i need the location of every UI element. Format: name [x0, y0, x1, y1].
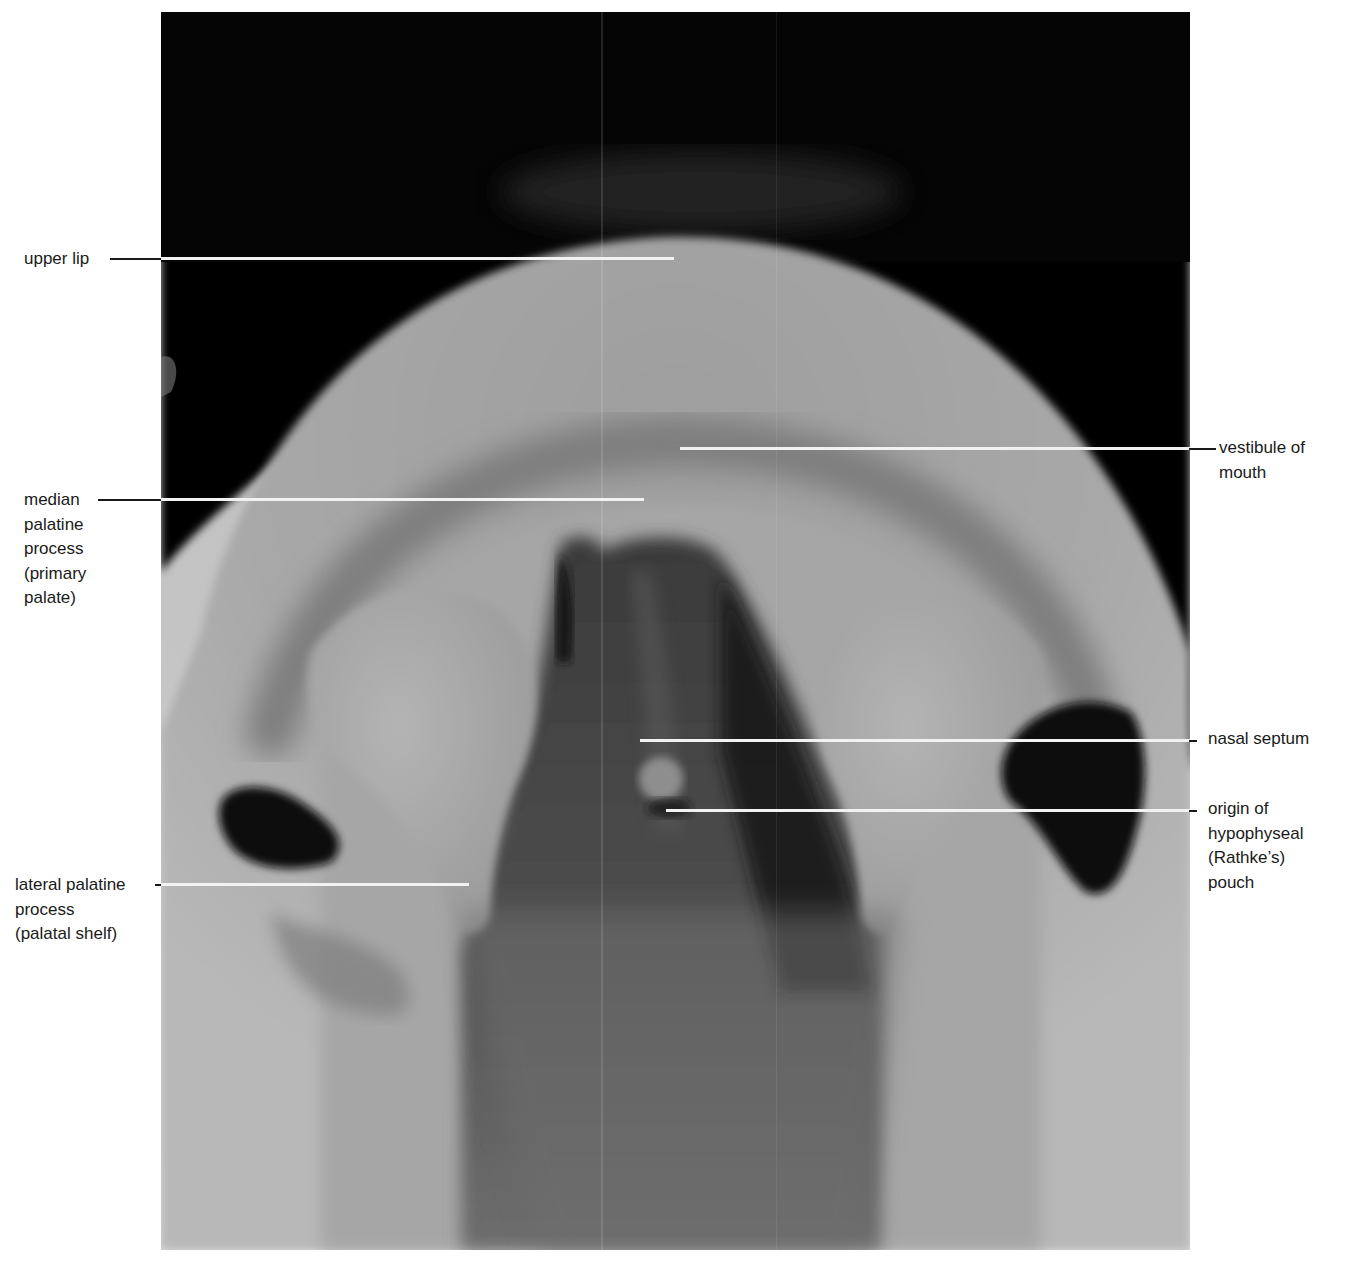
label-line: vestibule of [1219, 436, 1305, 461]
anatomical-figure: upper lip median palatine process (prima… [0, 0, 1348, 1263]
leader-lateral-palatine-inner [161, 883, 469, 886]
label-line: upper lip [24, 247, 89, 272]
label-line: lateral palatine [15, 873, 126, 898]
leader-vestibule-outer [1189, 448, 1216, 450]
label-median-palatine-process: median palatine process (primary palate) [24, 488, 86, 611]
label-line: pouch [1208, 871, 1303, 896]
label-upper-lip: upper lip [24, 247, 89, 272]
leader-upper-lip-outer [110, 258, 162, 260]
label-line: hypophyseal [1208, 822, 1303, 847]
label-vestibule-of-mouth: vestibule of mouth [1219, 436, 1305, 485]
label-line: process [15, 898, 126, 923]
leader-rathke-pouch-outer [1189, 810, 1197, 812]
leader-upper-lip-inner [161, 257, 674, 260]
label-line: palatine [24, 513, 86, 538]
leader-nasal-septum-inner [640, 739, 1190, 742]
label-lateral-palatine-process: lateral palatine process (palatal shelf) [15, 873, 126, 947]
label-line: median [24, 488, 86, 513]
leader-nasal-septum-outer [1189, 740, 1197, 742]
label-line: (palatal shelf) [15, 922, 126, 947]
label-line: process [24, 537, 86, 562]
leader-rathke-pouch-inner [666, 809, 1190, 812]
label-line: (primary [24, 562, 86, 587]
leader-median-palatine-outer [98, 499, 162, 501]
palate-photograph [161, 12, 1190, 1250]
label-origin-of-hypophyseal-pouch: origin of hypophyseal (Rathke’s) pouch [1208, 797, 1303, 895]
leader-vestibule-inner [680, 447, 1190, 450]
label-line: (Rathke’s) [1208, 846, 1303, 871]
leader-median-palatine-inner [161, 498, 644, 501]
label-line: mouth [1219, 461, 1305, 486]
label-line: origin of [1208, 797, 1303, 822]
label-line: palate) [24, 586, 86, 611]
label-nasal-septum: nasal septum [1208, 727, 1309, 752]
label-line: nasal septum [1208, 727, 1309, 752]
